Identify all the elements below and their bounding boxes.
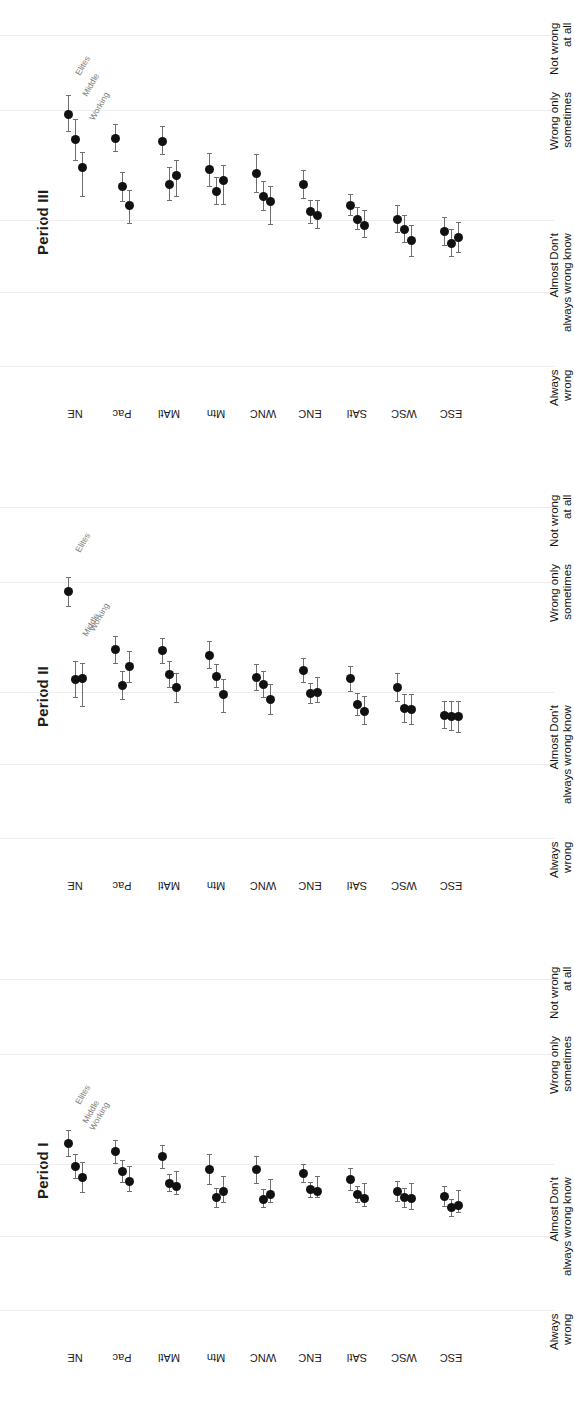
plot-area: NEPacMAtlMtnWNCENCSAtlWSCESCElitesMiddle… bbox=[55, 0, 490, 472]
data-point-marker bbox=[165, 180, 174, 189]
axis-tick-label-line2: wrong bbox=[561, 842, 574, 878]
data-point-marker bbox=[454, 233, 463, 242]
whisker-cap-upper bbox=[395, 1181, 400, 1182]
whisker-cap-upper bbox=[66, 1130, 71, 1131]
region-label: NE bbox=[53, 408, 97, 420]
whisker-cap-upper bbox=[167, 661, 172, 662]
axis-tick-label-line2: sometimes bbox=[561, 1036, 574, 1094]
axis-tick-label-line1: Always bbox=[548, 370, 560, 406]
whisker-cap-upper bbox=[355, 1186, 360, 1187]
data-point-marker bbox=[111, 1147, 120, 1156]
whisker-cap-lower bbox=[315, 702, 320, 703]
axis-tick-label-line1: Always bbox=[548, 842, 560, 878]
data-point-marker bbox=[71, 135, 80, 144]
whisker-cap-upper bbox=[221, 1176, 226, 1177]
whisker-cap-lower bbox=[402, 722, 407, 723]
whisker-cap-upper bbox=[348, 194, 353, 195]
axis-tick-label: Alwayswrong bbox=[548, 370, 574, 406]
axis-tick-label-line1: Almost bbox=[548, 1206, 560, 1241]
whisker-cap-upper bbox=[261, 1189, 266, 1190]
axis-tick-label-line2: wrong bbox=[561, 370, 574, 406]
confidence-interval-whisker bbox=[82, 663, 83, 705]
whisker-cap-lower bbox=[160, 663, 165, 664]
data-point-marker bbox=[118, 681, 127, 690]
panel-period-iii: Period IIINEPacMAtlMtnWNCENCSAtlWSCESCEl… bbox=[0, 0, 554, 472]
whisker-cap-upper bbox=[120, 1160, 125, 1161]
series-label-elites: Elites bbox=[73, 531, 92, 554]
whisker-cap-upper bbox=[120, 172, 125, 173]
panel-period-i: Period INEPacMAtlMtnWNCENCSAtlWSCESCElit… bbox=[0, 944, 554, 1416]
gridline bbox=[0, 366, 554, 367]
data-point-marker bbox=[454, 1201, 463, 1210]
whisker-cap-upper bbox=[160, 126, 165, 127]
data-point-marker bbox=[219, 176, 228, 185]
data-point-marker bbox=[252, 1165, 261, 1174]
region-label: NE bbox=[53, 880, 97, 892]
whisker-cap-lower bbox=[402, 1207, 407, 1208]
whisker-cap-lower bbox=[315, 228, 320, 229]
whisker-cap-lower bbox=[456, 732, 461, 733]
axis-tick-label-line1: Almost bbox=[548, 734, 560, 769]
data-point-marker bbox=[78, 163, 87, 172]
region-label: Pac bbox=[100, 880, 144, 892]
data-point-marker bbox=[346, 674, 355, 683]
region-label: Mtn bbox=[194, 880, 238, 892]
whisker-cap-upper bbox=[456, 701, 461, 702]
data-point-marker bbox=[393, 215, 402, 224]
whisker-cap-upper bbox=[221, 679, 226, 680]
axis-tick-label-line1: Wrong only bbox=[548, 564, 560, 622]
axis-tick-label-line1: Not wrong bbox=[548, 23, 560, 75]
whisker-cap-lower bbox=[456, 252, 461, 253]
whisker-cap-upper bbox=[73, 661, 78, 662]
data-point-marker bbox=[78, 1173, 87, 1182]
whisker-cap-lower bbox=[221, 712, 226, 713]
data-point-marker bbox=[172, 1182, 181, 1191]
whisker-cap-lower bbox=[308, 223, 313, 224]
whisker-cap-upper bbox=[348, 666, 353, 667]
whisker-cap-lower bbox=[442, 728, 447, 729]
data-point-marker bbox=[64, 587, 73, 596]
whisker-cap-lower bbox=[261, 210, 266, 211]
panel-title: Period I bbox=[34, 1142, 51, 1199]
series-label-middle: Middle bbox=[80, 72, 101, 99]
axis-tick-label: Almostalways wrong bbox=[548, 1206, 574, 1276]
gridline bbox=[0, 35, 554, 36]
axis-tick-label-line2: know bbox=[561, 705, 574, 732]
whisker-cap-lower bbox=[268, 1202, 273, 1203]
axis-tick-label-line2: at all bbox=[561, 495, 574, 547]
whisker-cap-upper bbox=[254, 664, 259, 665]
whisker-cap-lower bbox=[348, 691, 353, 692]
gridline bbox=[0, 292, 554, 293]
gridline bbox=[0, 1164, 554, 1165]
whisker-cap-lower bbox=[442, 245, 447, 246]
panel-period-ii: Period IINEPacMAtlMtnWNCENCSAtlWSCESCEli… bbox=[0, 472, 554, 944]
whisker-cap-upper bbox=[409, 694, 414, 695]
data-point-marker bbox=[299, 180, 308, 189]
whisker-cap-upper bbox=[174, 673, 179, 674]
whisker-cap-lower bbox=[456, 1212, 461, 1213]
whisker-cap-lower bbox=[308, 703, 313, 704]
whisker-cap-lower bbox=[449, 256, 454, 257]
whisker-cap-lower bbox=[214, 204, 219, 205]
data-point-marker bbox=[360, 1194, 369, 1203]
axis-tick-label-line2: at all bbox=[561, 967, 574, 1019]
axis-tick-label-line2: sometimes bbox=[561, 564, 574, 622]
whisker-cap-lower bbox=[113, 151, 118, 152]
data-point-marker bbox=[111, 134, 120, 143]
data-point-marker bbox=[125, 1177, 134, 1186]
gridline bbox=[0, 1054, 554, 1055]
data-point-marker bbox=[313, 688, 322, 697]
axis-tick-label-line2: at all bbox=[561, 23, 574, 75]
whisker-cap-lower bbox=[174, 1194, 179, 1195]
whisker-cap-upper bbox=[221, 165, 226, 166]
whisker-cap-upper bbox=[268, 684, 273, 685]
whisker-cap-lower bbox=[315, 1197, 320, 1198]
data-point-marker bbox=[219, 690, 228, 699]
whisker-cap-lower bbox=[80, 1192, 85, 1193]
data-point-marker bbox=[407, 705, 416, 714]
data-point-marker bbox=[125, 662, 134, 671]
axis-tick-label-line1: Not wrong bbox=[548, 495, 560, 547]
whisker-cap-lower bbox=[362, 1206, 367, 1207]
axis-tick-label-line2: know bbox=[561, 1177, 574, 1204]
region-label: WNC bbox=[241, 1352, 285, 1364]
